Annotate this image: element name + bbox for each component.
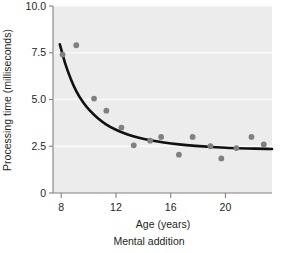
processing-time-vs-age-scatter-chart: 02.55.07.510.0 8121620 Processing time (… bbox=[0, 0, 284, 253]
x-tick-label: 12 bbox=[110, 201, 122, 213]
x-tick-label: 16 bbox=[165, 201, 177, 213]
data-point bbox=[261, 141, 267, 147]
data-point bbox=[73, 42, 79, 48]
data-point bbox=[158, 134, 164, 140]
x-tick-label: 20 bbox=[220, 201, 232, 213]
data-point bbox=[176, 152, 182, 158]
data-point bbox=[190, 134, 196, 140]
data-point bbox=[147, 138, 153, 144]
data-point bbox=[103, 108, 109, 114]
x-axis-label: Age (years) bbox=[136, 218, 190, 230]
data-point bbox=[234, 145, 240, 151]
chart-figure: 02.55.07.510.0 8121620 Processing time (… bbox=[0, 0, 284, 253]
y-tick-label: 2.5 bbox=[31, 140, 46, 152]
y-axis-label: Processing time (milliseconds) bbox=[1, 29, 13, 171]
y-tick-label: 7.5 bbox=[31, 46, 46, 58]
data-point bbox=[60, 52, 66, 58]
data-point bbox=[218, 156, 224, 162]
data-point bbox=[119, 125, 125, 131]
data-point bbox=[91, 96, 97, 102]
data-point bbox=[249, 134, 255, 140]
y-tick-label: 0 bbox=[40, 187, 46, 199]
x-tick-label: 8 bbox=[58, 201, 64, 213]
data-point bbox=[208, 143, 214, 149]
y-tick-label: 10.0 bbox=[26, 0, 47, 12]
data-point bbox=[131, 142, 137, 148]
chart-caption: Mental addition bbox=[113, 235, 184, 247]
y-tick-label: 5.0 bbox=[31, 93, 46, 105]
